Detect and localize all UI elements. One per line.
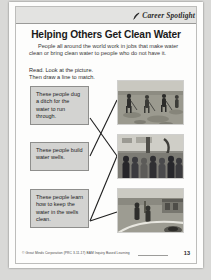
matching-activity: These people dug a ditch for the water t… xyxy=(16,78,196,244)
prompt-box-2[interactable]: These people build water wells. xyxy=(30,142,89,171)
prompt-text-2: These people build water wells. xyxy=(36,147,82,160)
footer-credit: © Great Minds Corporation (PRC 3-11-17) … xyxy=(22,251,130,255)
match-line-3 xyxy=(90,156,117,221)
career-spotlight-header: Career Spotlight xyxy=(133,6,195,24)
quill-icon xyxy=(133,6,140,24)
prompt-text-3: These people learn how to keep the water… xyxy=(36,194,83,222)
directions-line-1: Read. Look at the picture. xyxy=(29,67,124,74)
page-title: Helping Others Get Clean Water xyxy=(9,29,203,40)
worksheet-page: Career Spotlight Helping Others Get Clea… xyxy=(9,2,203,268)
photo-water-well-crowd[interactable] xyxy=(117,134,184,179)
prompt-box-1[interactable]: These people dug a ditch for the water t… xyxy=(30,86,89,125)
page-number: 13 xyxy=(184,250,190,256)
photo-roadside-well[interactable] xyxy=(117,188,184,233)
match-line-1 xyxy=(90,118,117,156)
page-footer: © Great Minds Corporation (PRC 3-11-17) … xyxy=(16,250,196,260)
screenshot-root: Career Spotlight Helping Others Get Clea… xyxy=(0,0,211,280)
match-line-4 xyxy=(90,212,117,221)
photo-digging-ditch[interactable] xyxy=(117,80,184,125)
intro-paragraph: People all around the world work in jobs… xyxy=(29,43,185,57)
prompt-box-3[interactable]: These people learn how to keep the water… xyxy=(30,189,89,228)
intro-text: People all around the world work in jobs… xyxy=(29,43,185,57)
career-spotlight-label: Career Spotlight xyxy=(142,11,195,20)
match-line-2 xyxy=(90,100,117,156)
footer-rule xyxy=(138,255,168,256)
prompt-text-1: These people dug a ditch for the water t… xyxy=(36,91,80,119)
